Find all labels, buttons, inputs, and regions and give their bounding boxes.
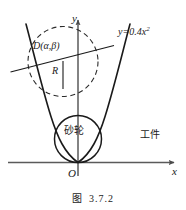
- caption-number: 3.7.2: [89, 193, 114, 204]
- figure-caption: 图3.7.2: [0, 190, 186, 205]
- figure-container: y x O y=0.4x2 D(α,β) R 砂轮 工件 图3.7.2: [0, 0, 186, 210]
- diagram-canvas: [0, 0, 186, 186]
- chord-line: [11, 46, 115, 73]
- caption-prefix: 图: [72, 193, 82, 204]
